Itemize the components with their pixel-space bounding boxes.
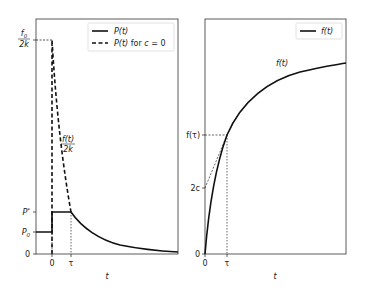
xtick-zero-right: 0 (202, 259, 207, 268)
right-xlabel: t (273, 272, 277, 281)
ytick-p0: P0 (22, 228, 31, 238)
legend-item-p: P(t) (114, 27, 128, 36)
ytick-zero-right: 0 (195, 250, 200, 259)
legend-item-f: f(t) (321, 27, 333, 36)
right-plot: f(τ) 2c 0 0 τ t f(t) f(t) (186, 19, 346, 281)
xtick-zero: 0 (49, 259, 54, 268)
xtick-tau: τ (69, 259, 74, 268)
xtick-tau-right: τ (225, 259, 230, 268)
annotation-f: f(t) (276, 59, 288, 68)
ytick-ftau: f(τ) (186, 131, 200, 140)
ytick-zero: 0 (25, 250, 30, 259)
svg-text:2k: 2k (63, 145, 73, 154)
right-legend: f(t) (296, 23, 342, 39)
annotation-f-over-2k: f(t) 2k (61, 135, 75, 154)
left-xlabel: t (105, 272, 109, 281)
svg-text:2k: 2k (19, 40, 29, 49)
left-legend: P(t) P(t) for c = 0 (88, 23, 174, 51)
p-curve (36, 212, 178, 252)
left-plot: f0 2k P* P0 0 0 τ t f(t) 2k P(t) P(t) fo… (18, 19, 178, 281)
left-plot-frame (36, 19, 178, 254)
figure: f0 2k P* P0 0 0 τ t f(t) 2k P(t) P(t) fo… (0, 0, 365, 290)
legend-item-p-c0: P(t) for c = 0 (114, 39, 166, 48)
ytick-2c: 2c (191, 184, 201, 193)
f-curve (205, 63, 346, 254)
ytick-pstar: P* (22, 207, 30, 217)
ytick-f0-over-2k: f0 2k (18, 29, 30, 49)
svg-text:f(t): f(t) (62, 135, 74, 144)
svg-text:f0: f0 (21, 29, 28, 39)
